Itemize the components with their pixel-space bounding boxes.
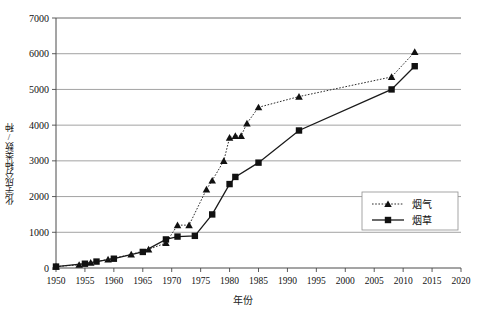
legend-box bbox=[362, 192, 458, 230]
data-point-square bbox=[209, 211, 215, 217]
y-tick-label: 2000 bbox=[29, 191, 49, 202]
x-tick-label: 2010 bbox=[394, 276, 413, 286]
data-point-triangle bbox=[174, 222, 182, 229]
data-point-square bbox=[412, 63, 418, 69]
y-tick-label: 3000 bbox=[29, 155, 49, 166]
data-point-square bbox=[226, 181, 232, 187]
chart-container: 化学成分种类数/种 年份 010002000300040005000600070… bbox=[0, 0, 486, 320]
x-tick-labels-group: 1950195519601965197019751980198519901995… bbox=[47, 276, 471, 286]
data-series-group bbox=[52, 48, 418, 269]
data-point-square bbox=[93, 258, 99, 264]
y-tick-label: 0 bbox=[44, 263, 49, 274]
y-tick-label: 1000 bbox=[29, 227, 49, 238]
data-point-square bbox=[111, 256, 117, 262]
x-tick-label: 1965 bbox=[133, 276, 152, 286]
data-point-square bbox=[163, 236, 169, 242]
data-point-square bbox=[296, 127, 302, 133]
x-tick-label: 1975 bbox=[191, 276, 210, 286]
data-point-square bbox=[192, 233, 198, 239]
legend-label-2: 烟草 bbox=[412, 214, 432, 226]
x-tick-label: 2015 bbox=[423, 276, 442, 286]
x-tick-label: 2005 bbox=[365, 276, 384, 286]
y-tick-labels-group: 01000200030004000500060007000 bbox=[29, 13, 49, 274]
data-point-triangle bbox=[243, 120, 251, 127]
x-tick-label: 2020 bbox=[452, 276, 471, 286]
x-tick-label: 1955 bbox=[75, 276, 94, 286]
x-tick-label: 1995 bbox=[307, 276, 326, 286]
data-point-triangle bbox=[203, 186, 211, 193]
data-point-triangle bbox=[255, 104, 263, 111]
data-point-triangle bbox=[295, 93, 303, 100]
data-point-triangle bbox=[185, 222, 193, 229]
axes-group bbox=[52, 18, 461, 272]
y-tick-label: 5000 bbox=[29, 84, 49, 95]
data-point-triangle bbox=[388, 73, 396, 80]
data-point-triangle bbox=[411, 48, 419, 55]
x-tick-label: 1990 bbox=[278, 276, 297, 286]
data-point-square bbox=[388, 86, 394, 92]
data-point-square bbox=[82, 261, 88, 267]
data-point-square bbox=[174, 233, 180, 239]
y-tick-label: 6000 bbox=[29, 48, 49, 59]
legend-label-1: 烟气 bbox=[412, 198, 432, 210]
data-point-square bbox=[255, 159, 261, 165]
legend-marker-square bbox=[385, 217, 391, 223]
x-tick-label: 1985 bbox=[249, 276, 268, 286]
data-point-square bbox=[140, 249, 146, 255]
series-line-2 bbox=[56, 66, 415, 266]
x-tick-label: 1950 bbox=[47, 276, 66, 286]
chart-legend: 烟气烟草 bbox=[362, 192, 458, 230]
x-tick-label: 1960 bbox=[104, 276, 123, 286]
data-point-square bbox=[232, 174, 238, 180]
chart-plot-svg: 01000200030004000500060007000 1950195519… bbox=[0, 0, 486, 320]
y-tick-label: 7000 bbox=[29, 13, 49, 24]
data-point-triangle bbox=[237, 132, 245, 139]
x-tick-label: 2000 bbox=[336, 276, 355, 286]
data-point-triangle bbox=[208, 177, 216, 184]
data-point-triangle bbox=[226, 134, 234, 141]
x-tick-label: 1980 bbox=[220, 276, 239, 286]
series-line-1 bbox=[56, 52, 415, 267]
y-tick-label: 4000 bbox=[29, 120, 49, 131]
data-point-square bbox=[53, 263, 59, 269]
x-tick-label: 1970 bbox=[162, 276, 181, 286]
